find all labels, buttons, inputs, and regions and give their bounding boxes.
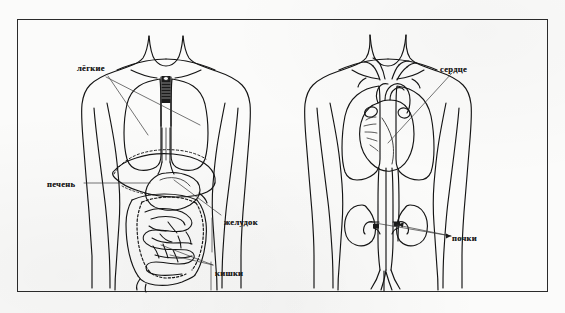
- label-lungs: лёгкие: [77, 63, 105, 73]
- stomach: [146, 173, 207, 211]
- label-liver: печень: [47, 179, 75, 189]
- diagram-page: лёгкие печень желудок кишки сердце почки: [0, 0, 565, 313]
- heart: [360, 84, 414, 171]
- great-vessels: [358, 58, 420, 88]
- leader-lines-left: [84, 76, 221, 290]
- label-kidneys: почки: [452, 233, 477, 243]
- small-intestine: [143, 209, 194, 276]
- anatomy-illustration: [0, 0, 565, 313]
- label-stomach: желудок: [224, 217, 258, 227]
- label-heart: сердце: [440, 64, 467, 74]
- label-intestines: кишки: [215, 268, 243, 278]
